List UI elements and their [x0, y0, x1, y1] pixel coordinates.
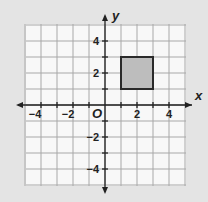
x-axis-left-arrow-icon — [16, 102, 23, 108]
x-tick-label-neg4: −4 — [29, 108, 42, 120]
y-axis-label: y — [111, 8, 120, 23]
x-axis-label: x — [194, 88, 203, 103]
y-axis-down-arrow-icon — [102, 187, 108, 194]
coordinate-plane: x y O −4 −2 2 4 4 2 −2 −4 — [0, 0, 208, 202]
y-tick-label-2: 2 — [93, 67, 99, 79]
square-shape — [121, 57, 153, 89]
y-tick-label-4: 4 — [93, 35, 100, 47]
x-tick-label-2: 2 — [134, 108, 140, 120]
x-axis-right-arrow-icon — [185, 102, 192, 108]
y-tick-label-neg4: −4 — [86, 163, 99, 175]
x-tick-label-4: 4 — [166, 108, 173, 120]
y-axis-up-arrow-icon — [102, 14, 108, 21]
origin-label: O — [92, 106, 102, 121]
y-tick-label-neg2: −2 — [86, 131, 99, 143]
x-tick-label-neg2: −2 — [62, 108, 75, 120]
